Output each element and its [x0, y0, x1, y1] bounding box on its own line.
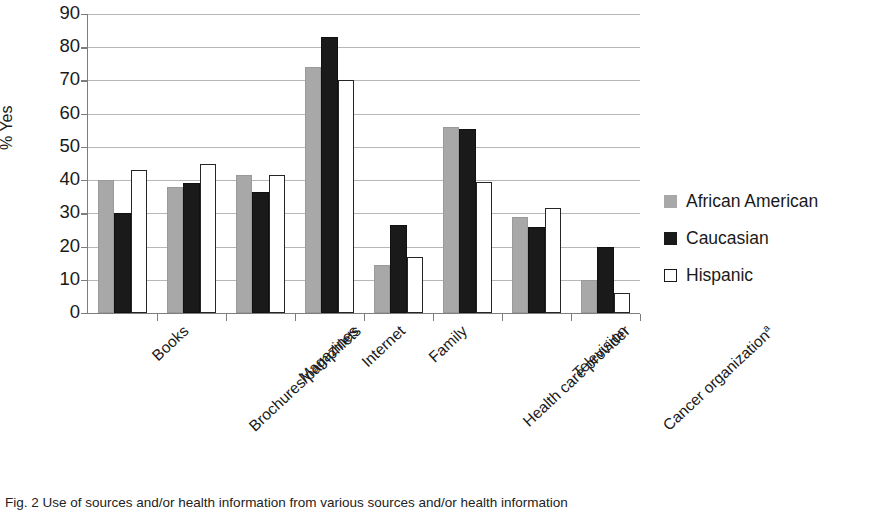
bar-group	[236, 14, 286, 313]
y-axis-tick	[81, 80, 88, 81]
x-axis-tick	[502, 314, 503, 321]
bar	[443, 127, 460, 313]
y-axis-tick	[81, 114, 88, 115]
bar	[114, 213, 131, 313]
x-axis-tick	[640, 314, 641, 321]
y-axis-tick-label: 0	[34, 303, 80, 322]
bar	[581, 280, 598, 313]
bar	[236, 175, 253, 313]
bar	[407, 257, 424, 313]
y-axis-tick	[81, 147, 88, 148]
legend-label: Caucasian	[686, 227, 769, 249]
bar	[131, 170, 148, 313]
x-axis-tick	[226, 314, 227, 321]
y-axis-tick-label: 40	[34, 170, 80, 189]
y-axis-tick-label: 20	[34, 237, 80, 256]
y-axis-tick-labels: 0102030405060708090	[14, 0, 80, 330]
bar	[374, 265, 391, 313]
legend-item: Caucasian	[664, 227, 870, 264]
bar	[597, 247, 614, 313]
x-axis-tick	[433, 314, 434, 321]
bar	[167, 187, 184, 313]
bar-group	[374, 14, 424, 313]
y-axis-tick	[81, 247, 88, 248]
bar	[252, 192, 269, 313]
y-axis-tick	[81, 280, 88, 281]
bar	[183, 183, 200, 313]
legend-label: African American	[686, 190, 818, 212]
bar-chart: % Yes 0102030405060708090 BooksBrochures…	[0, 0, 873, 511]
bar	[200, 164, 217, 314]
footnote-marker: a	[760, 322, 772, 334]
y-axis-tick	[81, 47, 88, 48]
y-axis-tick-label: 50	[34, 137, 80, 156]
bar	[305, 67, 322, 313]
bar	[321, 37, 338, 313]
bar	[459, 129, 476, 313]
y-axis-tick	[81, 14, 88, 15]
x-axis-category-label: Television	[569, 322, 631, 382]
bar	[338, 80, 355, 313]
bar	[512, 217, 529, 313]
bar	[476, 182, 493, 313]
legend-item: African American	[664, 190, 870, 227]
x-axis-tick	[571, 314, 572, 321]
plot-area	[88, 14, 640, 313]
bar	[98, 180, 115, 313]
bar-group	[167, 14, 217, 313]
x-axis-tick	[364, 314, 365, 321]
y-axis-tick	[81, 180, 88, 181]
y-axis-tick	[81, 313, 88, 314]
y-axis-tick-label: 30	[34, 203, 80, 222]
x-axis-category-label: Cancer organizationa	[658, 322, 777, 434]
legend-swatch	[664, 195, 677, 208]
y-axis-tick-label: 10	[34, 270, 80, 289]
legend-swatch	[664, 269, 677, 282]
y-axis-tick-label: 80	[34, 37, 80, 56]
x-axis-category-label: Magazines	[295, 322, 362, 386]
x-axis-category-label: Internet	[358, 322, 409, 371]
x-axis-tick	[295, 314, 296, 321]
figure-caption: Fig. 2 Use of sources and/or health info…	[5, 495, 873, 511]
x-axis-tick	[157, 314, 158, 321]
bar	[528, 227, 545, 313]
y-axis-tick-label: 90	[34, 4, 80, 23]
legend-label: Hispanic	[686, 264, 753, 286]
bar-group	[443, 14, 493, 313]
y-axis-tick	[81, 213, 88, 214]
bar	[614, 293, 631, 313]
y-axis-tick-label: 70	[34, 70, 80, 89]
bar-group	[305, 14, 355, 313]
legend-swatch	[664, 232, 677, 245]
bar-group	[581, 14, 631, 313]
legend-item: Hispanic	[664, 264, 870, 301]
bar-group	[98, 14, 148, 313]
bar	[545, 208, 562, 313]
bar-group	[512, 14, 562, 313]
bar	[269, 175, 286, 313]
x-axis-category-label: Books	[148, 322, 192, 365]
bar	[390, 225, 407, 313]
x-axis-category-label: Family	[425, 322, 471, 366]
chart-legend: African AmericanCaucasianHispanic	[664, 190, 870, 301]
y-axis-tick-label: 60	[34, 104, 80, 123]
